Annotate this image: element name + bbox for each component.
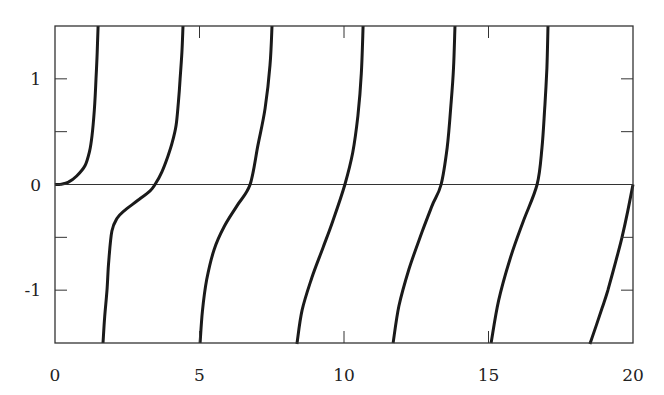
curves bbox=[55, 26, 633, 344]
y-axis-tick-labels: -101 bbox=[24, 69, 41, 300]
y-tick-label: -1 bbox=[24, 280, 41, 300]
x-tick-label: 0 bbox=[50, 365, 61, 385]
curve-branch-7 bbox=[590, 185, 633, 345]
x-tick-label: 10 bbox=[333, 365, 355, 385]
x-tick-label: 5 bbox=[194, 365, 205, 385]
x-axis-tick-labels: 05101520 bbox=[50, 365, 644, 385]
plot-area bbox=[55, 26, 633, 344]
curve-branch-4 bbox=[297, 26, 363, 344]
chart: 05101520 -101 bbox=[0, 0, 664, 395]
x-tick-label: 20 bbox=[622, 365, 644, 385]
y-tick-label: 1 bbox=[30, 69, 41, 89]
curve-branch-1 bbox=[55, 26, 98, 185]
y-tick-label: 0 bbox=[30, 175, 41, 195]
x-tick-label: 15 bbox=[478, 365, 500, 385]
